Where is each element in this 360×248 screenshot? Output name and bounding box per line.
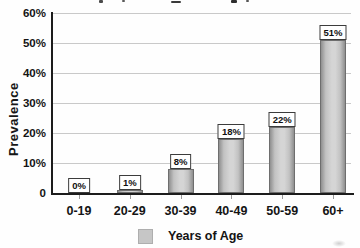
legend-swatch (138, 229, 153, 244)
cropped-title-mark (231, 0, 237, 3)
x-tick-label: 50-59 (266, 204, 298, 218)
cropped-corner-remnant (332, 240, 346, 247)
bar-value-label: 1% (119, 175, 141, 190)
gridline (53, 103, 351, 104)
x-tick (333, 195, 334, 199)
bar-value-label: 0% (68, 178, 90, 193)
y-tick-label: 40% (0, 67, 46, 80)
y-tick-label: 60% (0, 7, 46, 20)
bar-40-49 (218, 139, 244, 193)
y-tick-label: 10% (0, 157, 46, 170)
x-tick-label: 40-49 (215, 204, 247, 218)
gridline (53, 13, 351, 14)
x-tick-label: 20-29 (114, 204, 146, 218)
cropped-title-mark (99, 0, 103, 3)
gridline (53, 133, 351, 134)
bar-30-39 (168, 169, 194, 193)
y-tick-label: 20% (0, 127, 46, 140)
y-tick-label: 50% (0, 37, 46, 50)
bar-60+ (320, 40, 346, 193)
bar-value-label: 18% (218, 124, 245, 139)
bar-value-label: 8% (170, 154, 192, 169)
gridline (53, 73, 351, 74)
cropped-title-mark (171, 1, 181, 3)
bar-20-29 (117, 190, 143, 193)
x-tick (130, 195, 131, 199)
x-tick-label: 60+ (322, 204, 343, 218)
bar-value-label: 22% (269, 112, 296, 127)
x-axis-line (51, 193, 354, 195)
y-axis-line (51, 12, 53, 195)
bar-value-label: 51% (319, 25, 346, 40)
x-tick (79, 195, 80, 199)
y-tick-label: 0 (0, 187, 46, 200)
y-tick-label: 30% (0, 97, 46, 110)
x-tick-label: 0-19 (66, 204, 91, 218)
gridline (53, 43, 351, 44)
legend-label: Years of Age (168, 229, 243, 244)
x-tick (231, 195, 232, 199)
x-tick (282, 195, 283, 199)
x-tick (181, 195, 182, 199)
legend: Years of Age (138, 229, 243, 244)
gridline (53, 163, 351, 164)
cropped-title-mark (246, 0, 249, 2)
cropped-title-mark (122, 0, 125, 2)
x-tick-label: 30-39 (165, 204, 197, 218)
bar-50-59 (269, 127, 295, 193)
bar-chart-figure: Prevalence 60%50%40%30%20%10%00%0-191%20… (0, 0, 360, 248)
